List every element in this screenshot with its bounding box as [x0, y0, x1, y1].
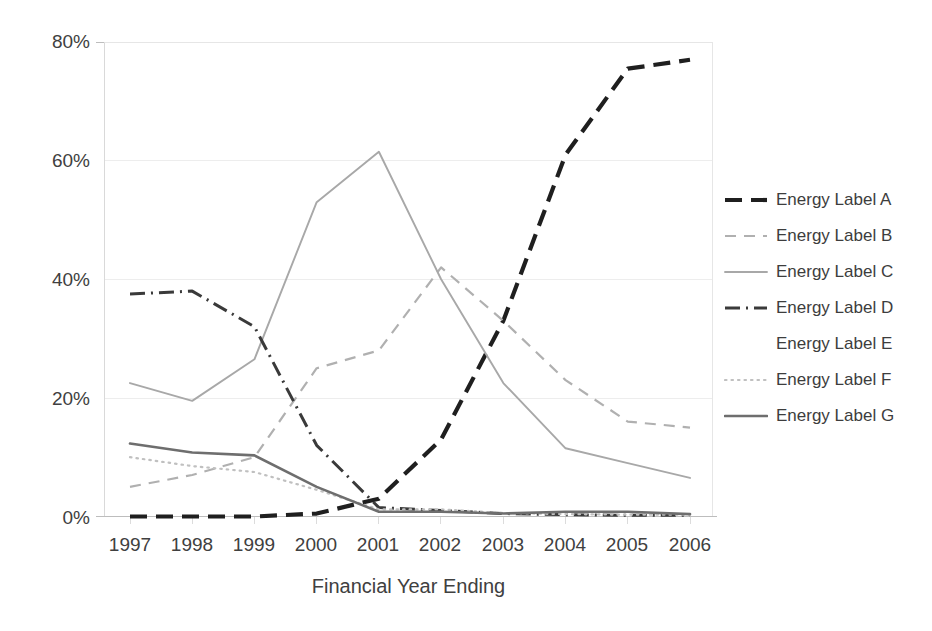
x-tick-label-1997: 1997	[97, 535, 163, 554]
x-tick-2000	[316, 517, 317, 524]
x-tick-1999	[254, 517, 255, 524]
legend-swatch-icon	[724, 229, 768, 243]
x-tick-2005	[627, 517, 628, 524]
legend-label: Energy Label C	[776, 262, 893, 282]
legend-label: Energy Label A	[776, 190, 891, 210]
line-chart: 80% 60% 40% 20% 0% 1997 1998 1999 2000 2…	[0, 0, 932, 631]
x-tick-2004	[565, 517, 566, 524]
legend-swatch-icon	[724, 265, 768, 279]
y-tick-label-60: 60%	[36, 151, 90, 170]
legend: Energy Label AEnergy Label BEnergy Label…	[724, 182, 924, 434]
y-tick-80	[96, 42, 104, 43]
x-tick-2006	[690, 517, 691, 524]
y-tick-label-20: 20%	[36, 389, 90, 408]
legend-item-energy-label-b[interactable]: Energy Label B	[724, 218, 924, 254]
x-tick-1997	[130, 517, 131, 524]
legend-swatch-icon	[724, 301, 768, 315]
legend-label: Energy Label E	[776, 334, 892, 354]
legend-swatch-icon	[724, 409, 768, 423]
legend-label: Energy Label B	[776, 226, 892, 246]
x-tick-label-2002: 2002	[407, 535, 473, 554]
x-tick-label-2000: 2000	[283, 535, 349, 554]
legend-label: Energy Label D	[776, 298, 893, 318]
x-tick-2003	[503, 517, 504, 524]
y-tick-0	[96, 516, 104, 517]
x-tick-label-1998: 1998	[159, 535, 225, 554]
legend-item-energy-label-a[interactable]: Energy Label A	[724, 182, 924, 218]
legend-label: Energy Label G	[776, 406, 894, 426]
x-tick-2002	[440, 517, 441, 524]
legend-swatch-icon	[724, 373, 768, 387]
x-tick-label-2001: 2001	[345, 535, 411, 554]
x-tick-2001	[378, 517, 379, 524]
legend-item-energy-label-f[interactable]: Energy Label F	[724, 362, 924, 398]
x-tick-label-2004: 2004	[532, 535, 598, 554]
legend-swatch-icon	[724, 337, 768, 351]
legend-label: Energy Label F	[776, 370, 891, 390]
legend-item-energy-label-c[interactable]: Energy Label C	[724, 254, 924, 290]
plot-area	[104, 42, 713, 517]
y-tick-label-80: 80%	[36, 32, 90, 51]
legend-item-energy-label-e[interactable]: Energy Label E	[724, 326, 924, 362]
x-tick-label-2003: 2003	[470, 535, 536, 554]
legend-item-energy-label-g[interactable]: Energy Label G	[724, 398, 924, 434]
x-axis-line	[96, 516, 717, 517]
legend-swatch-icon	[724, 193, 768, 207]
x-axis-title: Financial Year Ending	[104, 575, 713, 598]
y-tick-label-0: 0%	[36, 508, 90, 527]
legend-item-energy-label-d[interactable]: Energy Label D	[724, 290, 924, 326]
x-tick-label-2006: 2006	[657, 535, 723, 554]
x-tick-1998	[192, 517, 193, 524]
y-tick-label-40: 40%	[36, 270, 90, 289]
x-tick-label-1999: 1999	[221, 535, 287, 554]
x-tick-label-2005: 2005	[594, 535, 660, 554]
